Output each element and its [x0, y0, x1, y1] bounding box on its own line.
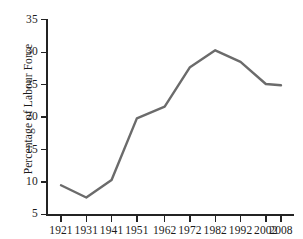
y-tick-mark [41, 84, 47, 85]
y-tick-mark [41, 181, 47, 182]
x-axis-line [46, 214, 294, 216]
y-tick-label: 5 [14, 208, 38, 220]
chart-figure: Percentage of Labour Force 5101520253035… [0, 0, 303, 239]
y-tick-label: 15 [14, 144, 38, 156]
y-tick-label: 10 [14, 176, 38, 188]
y-tick-mark [41, 52, 47, 53]
y-tick-mark [41, 214, 47, 215]
x-tick-mark [164, 216, 165, 222]
x-tick-mark [136, 216, 137, 222]
y-tick-label: 35 [14, 14, 38, 26]
x-tick-mark [240, 216, 241, 222]
line-series-labour-force [61, 50, 281, 197]
x-tick-mark [280, 216, 281, 222]
y-tick-label: 25 [14, 79, 38, 91]
y-tick-mark [41, 149, 47, 150]
x-tick-label: 2008 [261, 225, 301, 237]
y-tick-label: 30 [14, 46, 38, 58]
x-tick-mark [111, 216, 112, 222]
x-tick-mark [265, 216, 266, 222]
y-tick-mark [41, 116, 47, 117]
y-tick-label: 20 [14, 111, 38, 123]
x-tick-mark [189, 216, 190, 222]
x-tick-mark [215, 216, 216, 222]
x-tick-mark [60, 216, 61, 222]
y-tick-mark [41, 19, 47, 20]
x-tick-mark [86, 216, 87, 222]
